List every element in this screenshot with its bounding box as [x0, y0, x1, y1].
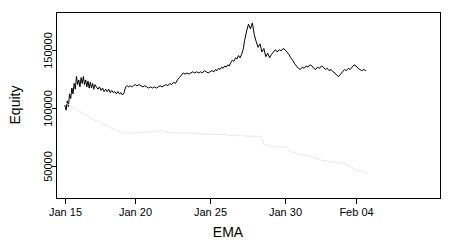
x-tick-label: Jan 20	[119, 206, 152, 218]
y-tick-label: 150000	[42, 32, 54, 69]
x-tick-label: Jan 25	[194, 206, 227, 218]
y-tick-label: 100000	[42, 90, 54, 127]
x-tick-label: Jan 30	[269, 206, 302, 218]
y-axis-tick-labels: 50000100000150000	[42, 32, 54, 182]
x-tick-label: Feb 04	[339, 206, 373, 218]
equity-chart-figure: 50000100000150000 Jan 15Jan 20Jan 25Jan …	[0, 0, 457, 245]
x-axis-title: EMA	[213, 224, 244, 240]
equity-plot-svg: 50000100000150000 Jan 15Jan 20Jan 25Jan …	[0, 0, 457, 245]
y-tick-label: 50000	[42, 151, 54, 182]
y-axis-title: Equity	[7, 86, 23, 125]
x-tick-label: Jan 15	[49, 206, 82, 218]
